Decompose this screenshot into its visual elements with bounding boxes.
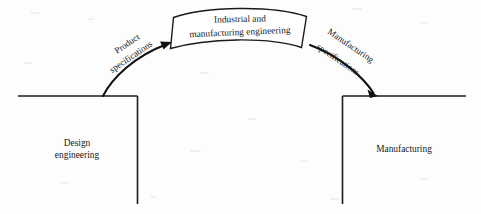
design-engineering-line-2: engineering bbox=[55, 150, 100, 160]
diagram-canvas: Industrial and manufacturing engineering… bbox=[0, 0, 481, 214]
manufacturing-line-1: Manufacturing bbox=[376, 144, 432, 154]
banner-line-1: Industrial and bbox=[214, 13, 266, 24]
manufacturing-label-group: Manufacturing bbox=[376, 144, 432, 154]
design-engineering-label-group: Design engineering bbox=[55, 138, 100, 160]
bridge-diagram-svg: Industrial and manufacturing engineering… bbox=[0, 0, 481, 214]
design-engineering-line-1: Design bbox=[64, 138, 91, 148]
manufacturing-specifications-label-group: Manufacturing specifications bbox=[315, 26, 376, 77]
